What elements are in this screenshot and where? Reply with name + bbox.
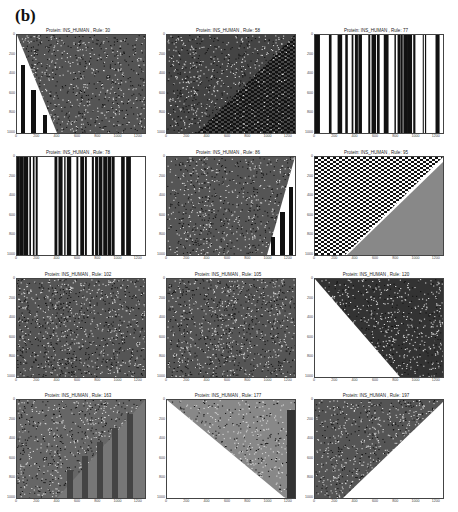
y-tick: 800 — [155, 110, 165, 114]
x-tick: 600 — [74, 499, 80, 503]
rule-panel: Protein: INS_HUMAN , Rule: 7702004006008… — [303, 28, 449, 146]
x-tick: 1200 — [432, 256, 440, 260]
y-tick: 600 — [155, 335, 165, 339]
y-tick: 0 — [155, 276, 165, 280]
x-tick: 800 — [244, 256, 250, 260]
x-tick: 800 — [244, 134, 250, 138]
x-tick: 400 — [54, 256, 60, 260]
x-tick: 400 — [54, 499, 60, 503]
y-tick: 400 — [155, 315, 165, 319]
x-tick: 800 — [94, 378, 100, 382]
y-tick: 1000 — [303, 495, 313, 499]
x-tick: 1200 — [134, 499, 142, 503]
x-tick: 1200 — [432, 134, 440, 138]
y-tick: 0 — [303, 276, 313, 280]
y-tick: 800 — [303, 110, 313, 114]
x-tick: 1000 — [114, 499, 122, 503]
x-tick: 1000 — [114, 378, 122, 382]
x-tick: 600 — [372, 134, 378, 138]
y-tick: 400 — [155, 193, 165, 197]
x-tick: 800 — [392, 256, 398, 260]
y-tick: 400 — [155, 436, 165, 440]
x-tick: 0 — [313, 378, 315, 382]
x-tick: 1200 — [134, 134, 142, 138]
y-tick: 1000 — [5, 130, 15, 134]
panel-title: Protein: INS_HUMAN , Rule: 77 — [303, 28, 449, 33]
y-tick: 600 — [5, 335, 15, 339]
y-tick: 800 — [5, 475, 15, 479]
y-tick: 200 — [5, 296, 15, 300]
rule-panel: Protein: INS_HUMAN , Rule: 1050200400600… — [155, 272, 301, 390]
rule-panel: Protein: INS_HUMAN , Rule: 7802004006008… — [5, 150, 151, 268]
x-tick: 0 — [313, 256, 315, 260]
panel-title: Protein: INS_HUMAN , Rule: 197 — [303, 393, 449, 398]
y-tick: 400 — [155, 71, 165, 75]
x-tick: 1200 — [284, 256, 292, 260]
x-tick: 1200 — [134, 378, 142, 382]
x-tick: 400 — [204, 378, 210, 382]
x-tick: 400 — [204, 499, 210, 503]
y-tick: 0 — [155, 32, 165, 36]
y-tick: 800 — [303, 354, 313, 358]
x-tick: 800 — [244, 378, 250, 382]
y-tick: 800 — [5, 110, 15, 114]
x-tick: 1000 — [264, 499, 272, 503]
y-tick: 600 — [5, 213, 15, 217]
y-tick: 400 — [303, 193, 313, 197]
heatmap-plot — [16, 399, 146, 499]
x-tick: 0 — [15, 134, 17, 138]
y-tick: 200 — [303, 174, 313, 178]
x-tick: 0 — [165, 256, 167, 260]
x-tick: 1000 — [114, 256, 122, 260]
x-tick: 400 — [352, 134, 358, 138]
x-tick: 800 — [94, 499, 100, 503]
x-tick: 200 — [183, 378, 189, 382]
heatmap-plot — [314, 399, 444, 499]
rule-panel: Protein: INS_HUMAN , Rule: 3002004006008… — [5, 28, 151, 146]
rule-panel: Protein: INS_HUMAN , Rule: 1770200400600… — [155, 393, 301, 511]
y-tick: 800 — [5, 354, 15, 358]
x-tick: 800 — [392, 499, 398, 503]
x-tick: 600 — [74, 256, 80, 260]
y-tick: 400 — [5, 436, 15, 440]
y-tick: 0 — [5, 397, 15, 401]
y-tick: 200 — [155, 417, 165, 421]
rule-panel: Protein: INS_HUMAN , Rule: 9502004006008… — [303, 150, 449, 268]
y-tick: 1000 — [155, 130, 165, 134]
y-tick: 600 — [303, 91, 313, 95]
panel-title: Protein: INS_HUMAN , Rule: 58 — [155, 28, 301, 33]
y-tick: 1000 — [5, 495, 15, 499]
x-tick: 400 — [352, 256, 358, 260]
x-tick: 1200 — [432, 499, 440, 503]
x-tick: 400 — [54, 378, 60, 382]
rule-panel: Protein: INS_HUMAN , Rule: 1970200400600… — [303, 393, 449, 511]
x-tick: 600 — [224, 256, 230, 260]
x-tick: 0 — [15, 499, 17, 503]
x-tick: 600 — [74, 378, 80, 382]
heatmap-plot — [16, 156, 146, 256]
y-tick: 0 — [155, 154, 165, 158]
heatmap-plot — [166, 399, 296, 499]
y-tick: 1000 — [155, 252, 165, 256]
x-tick: 0 — [165, 134, 167, 138]
x-tick: 800 — [392, 134, 398, 138]
heatmap-plot — [314, 278, 444, 378]
x-tick: 400 — [352, 378, 358, 382]
y-tick: 400 — [303, 436, 313, 440]
y-tick: 0 — [303, 32, 313, 36]
panel-title: Protein: INS_HUMAN , Rule: 95 — [303, 150, 449, 155]
y-tick: 200 — [5, 52, 15, 56]
panel-title: Protein: INS_HUMAN , Rule: 105 — [155, 272, 301, 277]
y-tick: 600 — [155, 456, 165, 460]
y-tick: 200 — [155, 52, 165, 56]
x-tick: 0 — [313, 134, 315, 138]
y-tick: 200 — [303, 417, 313, 421]
x-tick: 200 — [331, 378, 337, 382]
y-tick: 1000 — [303, 374, 313, 378]
y-tick: 0 — [303, 397, 313, 401]
x-tick: 1200 — [284, 134, 292, 138]
heatmap-plot — [166, 156, 296, 256]
y-tick: 400 — [303, 71, 313, 75]
y-tick: 400 — [5, 193, 15, 197]
x-tick: 200 — [331, 256, 337, 260]
